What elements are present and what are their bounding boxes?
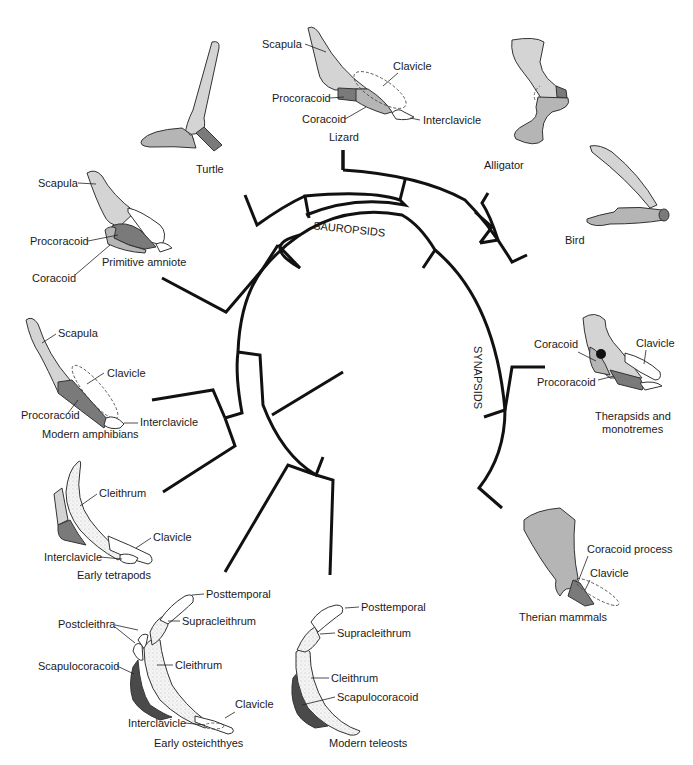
label-tetrapod-interclavicle: Interclavicle [44,551,102,563]
label-lizard-scapula: Scapula [262,38,303,50]
label-teleost-supracleithrum: Supracleithrum [337,627,411,639]
label-osteichthyes-interclavicle: Interclavicle [128,717,186,729]
early-tetrapods-girdle-illustration [54,461,152,564]
label-therapsid-coracoid: Coracoid [534,338,578,350]
taxon-label-modern-amphibians: Modern amphibians [42,428,139,440]
label-amphibian-procoracoid: Procoracoid [21,409,80,421]
lizard-labels: Scapula Clavicle Procoracoid Coracoid In… [262,38,481,143]
label-teleost-posttemporal: Posttemporal [361,601,426,613]
label-osteichthyes-clavicle: Clavicle [235,698,274,710]
taxon-label-turtle: Turtle [196,163,224,175]
taxon-label-therapsids-line1: Therapsids and [595,410,671,422]
taxon-label-therapsids-line2: monotremes [602,423,664,435]
taxon-label-bird: Bird [565,234,585,246]
label-osteichthyes-supracleithrum: Supracleithrum [182,615,256,627]
label-lizard-clavicle: Clavicle [393,60,432,72]
label-therapsid-procoracoid: Procoracoid [537,376,596,388]
label-amphibian-interclavicle: Interclavicle [140,416,198,428]
turtle-girdle-illustration [141,42,222,151]
label-osteichthyes-posttemporal: Posttemporal [206,588,271,600]
taxon-label-early-tetrapods: Early tetrapods [77,569,151,581]
taxon-label-primitive-amniote: Primitive amniote [102,256,186,268]
branch-early-tetrapods [163,418,235,492]
taxon-label-modern-teleosts: Modern teleosts [329,737,408,749]
clade-label-sauropsids: SAUROPSIDS [313,219,386,238]
branch-therapsids [505,367,545,410]
branch-primitive-amniote [162,270,262,312]
node-tetrapods [238,245,278,352]
label-amniote-coracoid: Coracoid [32,272,76,284]
bird-girdle-illustration [587,146,669,226]
label-osteichthyes-cleithrum: Cleithrum [175,659,222,671]
label-therian-coracoid-process: Coracoid process [587,543,673,555]
branch-early-osteichthyes [225,465,316,572]
label-amniote-procoracoid: Procoracoid [30,235,89,247]
synapsid-arc [435,250,505,508]
phylogenetic-tree [152,150,545,575]
primitive-amniote-girdle-illustration [87,171,172,253]
taxon-label-lizard: Lizard [329,131,359,143]
modern-teleosts-girdle-illustration [292,605,360,735]
label-amphibian-clavicle: Clavicle [107,367,146,379]
taxon-label-alligator: Alligator [484,159,524,171]
label-therian-clavicle: Clavicle [590,567,629,579]
clade-label-synapsids: SYNAPSIDS [472,346,484,409]
branch-teleost-node [316,475,333,575]
alligator-girdle-illustration [512,38,569,143]
node-osteichthyes [238,352,323,475]
label-therapsid-clavicle: Clavicle [636,337,675,349]
label-osteichthyes-postcleithra: Postcleithra [58,618,116,630]
therian-mammals-girdle-illustration [524,508,622,610]
label-osteichthyes-scapulocoracoid: Scapulocoracoid [38,660,119,672]
root-branch [272,372,343,415]
label-amphibian-scapula: Scapula [58,327,99,339]
label-lizard-interclavicle: Interclavicle [423,114,481,126]
taxon-label-early-osteichthyes: Early osteichthyes [154,737,244,749]
branch-early-tetrapods-stub [225,352,242,418]
branch-amphibian-node [152,390,225,418]
label-teleost-scapulocoracoid: Scapulocoracoid [337,691,418,703]
label-amniote-scapula: Scapula [38,177,79,189]
label-teleost-cleithrum: Cleithrum [331,672,378,684]
phylogeny-figure: SAUROPSIDS SYNAPSIDS Turtle Scapula Clav… [0,0,693,765]
label-tetrapod-clavicle: Clavicle [153,531,192,543]
label-tetrapod-cleithrum: Cleithrum [99,487,146,499]
label-lizard-coracoid: Coracoid [302,113,346,125]
label-lizard-procoracoid: Procoracoid [272,92,331,104]
taxon-label-therian-mammals: Therian mammals [519,611,608,623]
turtle-branch [245,195,305,225]
